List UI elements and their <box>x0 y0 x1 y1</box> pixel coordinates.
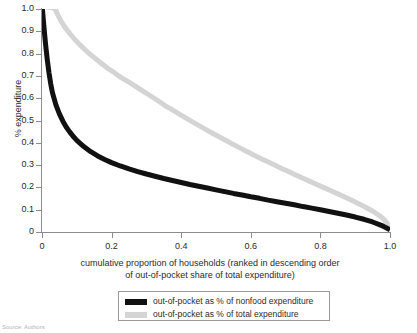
legend-swatch-total <box>125 312 147 318</box>
y-tick-mark <box>36 143 41 144</box>
y-tick-label: 0.6 <box>0 93 34 102</box>
y-tick-label: 0.2 <box>0 182 34 191</box>
x-tick-mark <box>181 233 182 238</box>
y-tick-mark <box>36 54 41 55</box>
y-tick-label: 0.8 <box>0 49 34 58</box>
x-tick-mark <box>320 233 321 238</box>
legend-item-nonfood: out-of-pocket as % of nonfood expenditur… <box>125 296 323 307</box>
legend-label-total: out-of-pocket as % of total expenditure <box>153 310 299 319</box>
legend-label-nonfood: out-of-pocket as % of nonfood expenditur… <box>153 297 313 306</box>
x-tick-label: 0.8 <box>300 241 340 251</box>
x-tick-mark <box>390 233 391 238</box>
y-tick-label: 0.3 <box>0 160 34 169</box>
x-axis-line <box>41 232 391 233</box>
y-tick-mark <box>36 187 41 188</box>
y-tick-label: 0.7 <box>0 71 34 80</box>
x-axis-title: cumulative proportion of households (ran… <box>30 257 390 281</box>
y-tick-mark <box>36 9 41 10</box>
x-tick-label: 1.0 <box>370 241 410 251</box>
series-line-total <box>42 9 390 227</box>
y-tick-label: 0 <box>0 227 34 236</box>
y-tick-mark <box>36 165 41 166</box>
x-tick-mark <box>251 233 252 238</box>
y-tick-mark <box>36 121 41 122</box>
x-tick-mark <box>112 233 113 238</box>
y-tick-label: 1.0 <box>0 4 34 13</box>
legend: out-of-pocket as % of nonfood expenditur… <box>118 291 330 321</box>
x-tick-label: 0 <box>22 241 62 251</box>
y-tick-mark <box>36 232 41 233</box>
chart-figure: % expenditure 00.10.20.30.40.50.60.70.80… <box>0 0 417 333</box>
y-tick-label: 0.5 <box>0 116 34 125</box>
x-tick-mark <box>42 233 43 238</box>
y-tick-label: 0.4 <box>0 138 34 147</box>
x-axis-title-line1: cumulative proportion of households (ran… <box>30 257 390 269</box>
y-tick-mark <box>36 76 41 77</box>
y-tick-mark <box>36 98 41 99</box>
y-tick-mark <box>36 210 41 211</box>
legend-item-total: out-of-pocket as % of total expenditure <box>125 309 323 320</box>
plot-area <box>42 9 390 232</box>
series-lines <box>42 9 390 232</box>
series-line-nonfood <box>42 9 390 230</box>
x-tick-label: 0.6 <box>231 241 271 251</box>
x-tick-label: 0.4 <box>161 241 201 251</box>
y-tick-mark <box>36 31 41 32</box>
legend-swatch-nonfood <box>125 299 147 305</box>
y-tick-label: 0.9 <box>0 26 34 35</box>
x-tick-label: 0.2 <box>92 241 132 251</box>
y-tick-label: 0.1 <box>0 205 34 214</box>
x-axis-title-line2: of out-of-pocket share of total expendit… <box>30 269 390 281</box>
source-note: Source: Authors <box>2 324 45 331</box>
